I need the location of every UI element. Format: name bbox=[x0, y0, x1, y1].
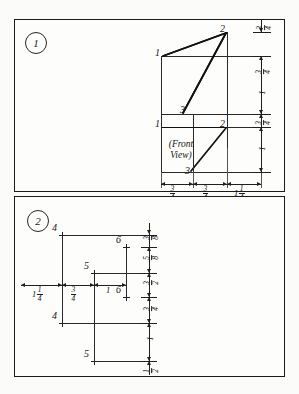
dim-label-v2-3: 3 4 bbox=[143, 306, 159, 312]
dim-arrow-v2-2-down bbox=[147, 293, 151, 297]
dim-v-1-numerator: 3 bbox=[255, 69, 263, 75]
dim-label-v-0: 3 4 bbox=[256, 25, 272, 31]
dim-tick-v-4 bbox=[253, 172, 271, 173]
dim-arrow-h2-2-right bbox=[90, 283, 94, 287]
dim-v2-1-fraction: 5 8 bbox=[143, 255, 159, 261]
front-view-caption-line-2: View) bbox=[170, 150, 191, 160]
dim-h-3-numerator: 1 bbox=[239, 185, 245, 193]
dim-arrow-v-3-down bbox=[259, 168, 263, 172]
dim-v-1-fraction: 3 4 bbox=[255, 69, 271, 75]
point-label-4-lower: 4 bbox=[52, 311, 57, 321]
dim-h2-2-numerator: 3 bbox=[71, 286, 77, 294]
dim-h2-2-denominator: 4 bbox=[71, 294, 77, 303]
dim-label-h2-1: 1 1 4 bbox=[32, 286, 43, 302]
drawing-sheet: 1 1 2 3 1 2 3 bbox=[0, 0, 299, 394]
dim-label-v-3: 3 4 bbox=[255, 120, 271, 126]
dim-arrow-v-3-up bbox=[259, 127, 263, 131]
dim-v-2-whole: 1 bbox=[258, 90, 267, 94]
dim-label-h2-2: 3 4 bbox=[70, 286, 76, 302]
dim-arrow-h-2-left bbox=[193, 182, 197, 186]
dim-label-h2-3: 1 bbox=[106, 286, 111, 295]
dim-v2-1-denominator: 8 bbox=[151, 255, 160, 261]
dim-line-v-1 bbox=[261, 56, 262, 114]
line-at-point-4-upper bbox=[61, 235, 149, 236]
panel-2-frame: 2 4 6 5 6 4 5 1 1 4 bbox=[14, 196, 285, 377]
dim-arrow-v2-1-down bbox=[147, 269, 151, 273]
dim-v2-2-fraction: 3 2 bbox=[143, 280, 159, 286]
point-label-6-lower: 6 bbox=[116, 285, 121, 295]
dim-arrow-h-1-left bbox=[161, 182, 165, 186]
dim-v2-3-numerator: 3 bbox=[143, 306, 151, 312]
dim-v2-2-denominator: 2 bbox=[151, 280, 160, 286]
dim-arrow-v2-4-up bbox=[147, 323, 151, 327]
dim-h2-2-fraction: 3 4 bbox=[71, 286, 77, 302]
point-marker-5-lower bbox=[91, 358, 98, 365]
dim-arrow-h2-1-right bbox=[58, 283, 62, 287]
dim-v2-2-numerator: 3 bbox=[143, 280, 151, 286]
dim-arrow-v2-2-up bbox=[147, 273, 151, 277]
dim-label-v-4: 1 bbox=[258, 146, 267, 151]
dim-arrow-v2-3-up bbox=[147, 297, 151, 301]
point-label-2-front: 2 bbox=[220, 119, 225, 129]
dim-arrow-h2-3-right bbox=[122, 283, 126, 287]
dim-v-4-whole: 1 bbox=[258, 146, 267, 150]
dim-v2-4-whole: 1 bbox=[146, 336, 155, 340]
panel-1-frame: 1 1 2 3 1 2 3 bbox=[14, 19, 285, 192]
dim-v-3-numerator: 3 bbox=[255, 120, 263, 126]
dim-v-1-denominator: 4 bbox=[263, 69, 272, 75]
dim-v2-3-fraction: 3 4 bbox=[143, 306, 159, 312]
front-view-edge-3-2 bbox=[15, 20, 286, 193]
dim-arrow-v-1-up bbox=[259, 56, 263, 60]
point-label-5-upper: 5 bbox=[84, 261, 89, 271]
dim-h2-1-fraction: 1 4 bbox=[37, 286, 43, 302]
dim-arrow-v2-1-up bbox=[147, 247, 151, 251]
dim-v2-5-numerator: 1 bbox=[143, 368, 151, 374]
point-marker-6-lower bbox=[123, 294, 130, 301]
dim-v2-0-denominator: 8 bbox=[151, 235, 160, 241]
dim-label-v2-1: 5 8 bbox=[143, 255, 159, 261]
dim-label-v2-5: 1 2 bbox=[143, 368, 159, 374]
dim-arrow-v-2-up bbox=[259, 114, 263, 118]
dim-v2-5-denominator: 2 bbox=[151, 368, 160, 374]
dim-v2-0-numerator: 3 bbox=[143, 235, 151, 241]
dim-arrow-h2-2-left bbox=[62, 283, 66, 287]
dim-label-v2-0: 3 8 bbox=[143, 235, 159, 241]
dim-h2-3-whole: 1 bbox=[106, 286, 110, 295]
dim-v-0-numerator: 3 bbox=[256, 25, 264, 31]
dim-v-0-fraction: 3 4 bbox=[256, 25, 272, 31]
dim-label-v2-4: 1 bbox=[146, 336, 155, 341]
dim-h2-1-whole: 1 bbox=[32, 290, 36, 299]
dim-h2-1-denominator: 4 bbox=[37, 294, 43, 303]
dim-arrow-h2-3-left bbox=[94, 283, 98, 287]
point-label-6-upper: 6 bbox=[116, 235, 121, 245]
dim-v2-1-numerator: 5 bbox=[143, 255, 151, 261]
point-marker-4-upper bbox=[59, 232, 66, 239]
dim-line-v2-4 bbox=[149, 323, 150, 361]
point-marker-4-lower bbox=[59, 320, 66, 327]
dim-v2-5-fraction: 1 2 bbox=[143, 368, 159, 374]
vert-through-points-6 bbox=[126, 247, 127, 297]
dim-h-1-numerator: 3 bbox=[170, 185, 176, 193]
dim-arrow-h-2-right bbox=[223, 182, 227, 186]
dim-v2-3-denominator: 4 bbox=[151, 306, 160, 312]
dim-arrow-h-3-right bbox=[257, 182, 261, 186]
dim-tick-v-top bbox=[253, 32, 271, 33]
panel-2-badge: 2 bbox=[27, 210, 49, 232]
dim-label-v-2: 1 bbox=[258, 90, 267, 95]
dim-v-3-fraction: 3 4 bbox=[255, 120, 271, 126]
dim-label-v2-2: 3 2 bbox=[143, 280, 159, 286]
dim-arrow-v2-3-down bbox=[147, 319, 151, 323]
dim-arrow-v2-5-up bbox=[147, 361, 151, 365]
dim-label-v-1: 3 4 bbox=[255, 69, 271, 75]
point-label-1-front: 1 bbox=[155, 119, 160, 129]
dim-v2-0-fraction: 3 8 bbox=[143, 235, 159, 241]
point-marker-5-upper bbox=[91, 270, 98, 277]
dim-h-2-numerator: 3 bbox=[203, 185, 209, 193]
dim-v-0-denominator: 4 bbox=[264, 25, 273, 31]
front-view-caption-line-1: (Front bbox=[169, 139, 193, 149]
point-label-3-front: 3 bbox=[185, 166, 190, 176]
dim-v-3-denominator: 4 bbox=[263, 120, 272, 126]
dim-ext-line-h2 bbox=[193, 172, 194, 188]
dim-arrow-h2-1-left bbox=[21, 283, 25, 287]
dim-h2-1-numerator: 1 bbox=[37, 286, 43, 294]
